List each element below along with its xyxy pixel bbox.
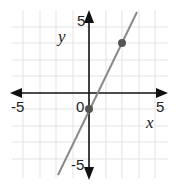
y-max-label: 5 xyxy=(77,12,85,29)
origin-label: 0 xyxy=(76,98,84,115)
y-min-label: -5 xyxy=(71,156,84,173)
y-axis-up-arrow-icon xyxy=(84,10,94,23)
point-0-neg1 xyxy=(85,105,93,113)
y-axis-label: y xyxy=(56,27,66,46)
x-axis-label: x xyxy=(145,113,154,132)
y-axis xyxy=(84,10,94,180)
x-axis-left-arrow-icon xyxy=(10,88,22,98)
x-axis-right-arrow-icon xyxy=(156,88,168,98)
grid xyxy=(12,10,168,178)
x-min-label: -5 xyxy=(11,98,24,115)
point-2-3 xyxy=(118,39,126,47)
coordinate-plane: -5 5 0 5 -5 y x xyxy=(0,0,176,185)
y-axis-down-arrow-icon xyxy=(84,167,94,180)
x-max-label: 5 xyxy=(156,98,164,115)
